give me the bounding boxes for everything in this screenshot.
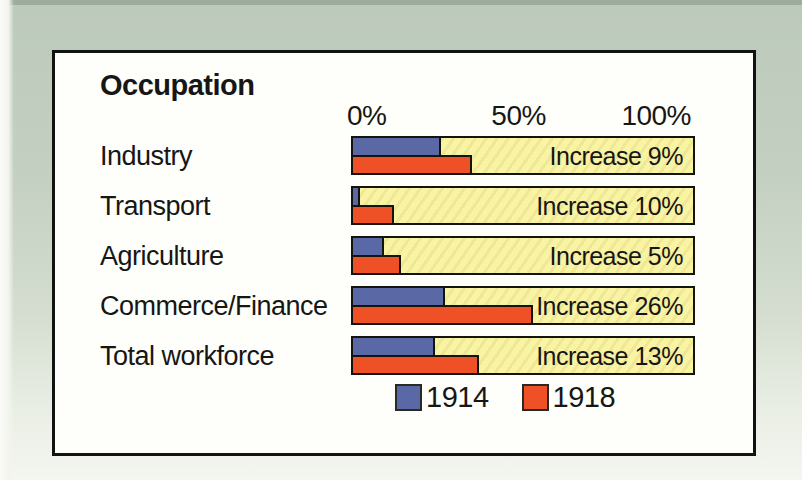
page-left-edge (0, 0, 14, 480)
legend-swatch-1914 (395, 384, 422, 411)
increase-label: Increase 5% (550, 241, 683, 270)
legend-swatch-1918 (522, 384, 549, 411)
chart-rows: Industry Increase 9% Transport Increase … (55, 136, 753, 381)
increase-label: Increase 13% (536, 341, 683, 370)
x-axis: 0% 50% 100% (351, 100, 695, 130)
chart-panel: Occupation 0% 50% 100% Industry Increase… (52, 50, 756, 456)
increase-label: Increase 9% (550, 141, 683, 170)
increase-label: Increase 10% (536, 191, 683, 220)
legend-label-1918: 1918 (553, 381, 616, 414)
chart-row: Industry Increase 9% (55, 136, 753, 175)
chart-title: Occupation (100, 70, 255, 102)
bar-1918 (351, 255, 401, 276)
chart-legend: 1914 1918 (395, 382, 615, 412)
row-label: Commerce/Finance (100, 290, 328, 321)
legend-label-1914: 1914 (426, 381, 489, 414)
bar-1914 (351, 136, 441, 157)
chart-row: Transport Increase 10% (55, 186, 753, 225)
bar-1918 (351, 205, 394, 226)
chart-row: Commerce/Finance Increase 26% (55, 286, 753, 325)
row-label: Agriculture (100, 240, 224, 271)
row-label: Total workforce (100, 340, 274, 371)
bar-1914 (351, 286, 445, 307)
bar-1914 (351, 336, 435, 357)
axis-tick-100: 100% (621, 100, 691, 132)
bar-1918 (351, 155, 472, 176)
scanned-page: Occupation 0% 50% 100% Industry Increase… (0, 0, 802, 480)
axis-tick-50: 50% (491, 100, 546, 132)
increase-label: Increase 26% (536, 291, 683, 320)
bar-1914 (351, 236, 384, 257)
legend-item-1914: 1914 (395, 381, 489, 414)
chart-row: Total workforce Increase 13% (55, 336, 753, 375)
page-top-shadow (0, 0, 802, 5)
row-label: Industry (100, 140, 192, 171)
bar-track: Increase 26% (351, 286, 695, 325)
axis-tick-0: 0% (347, 100, 386, 132)
legend-item-1918: 1918 (522, 381, 616, 414)
chart-row: Agriculture Increase 5% (55, 236, 753, 275)
row-label: Transport (100, 190, 210, 221)
bar-track: Increase 13% (351, 336, 695, 375)
bar-1914 (351, 186, 360, 207)
bar-track: Increase 9% (351, 136, 695, 175)
bar-track: Increase 5% (351, 236, 695, 275)
bar-track: Increase 10% (351, 186, 695, 225)
bar-1918 (351, 355, 479, 376)
bar-1918 (351, 305, 533, 326)
